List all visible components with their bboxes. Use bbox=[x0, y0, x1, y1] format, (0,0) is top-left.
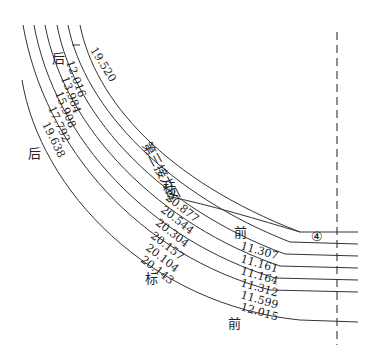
lane-line-2 bbox=[34, 25, 358, 280]
front-values: 11.307 11.161 11.164 11.312 11.599 12.01… bbox=[239, 239, 280, 323]
front-label-top: 前 bbox=[234, 225, 247, 240]
top-value: 19.520 bbox=[87, 45, 118, 85]
back-label-left: 后 bbox=[28, 146, 41, 161]
front-label-bottom: 前 bbox=[228, 316, 241, 331]
back-label-top: 后 bbox=[52, 51, 65, 66]
relay-zone-diagram: 后 后 标 标 前 前 第三接力区 ④ 19.520 12.016 13.984… bbox=[0, 0, 391, 356]
lane-line-5 bbox=[68, 25, 358, 244]
back-values: 12.016 13.984 15.908 17.792 19.638 bbox=[39, 59, 88, 160]
marker-number: ④ bbox=[311, 229, 323, 244]
